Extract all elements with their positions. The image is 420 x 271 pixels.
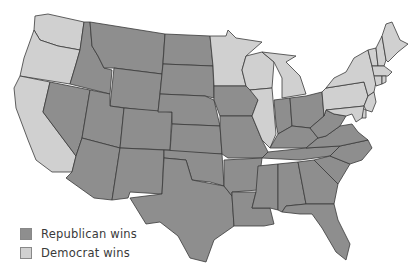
state-SD	[160, 64, 214, 98]
state-KS	[170, 124, 222, 154]
legend: Republican wins Democrat wins	[20, 224, 137, 262]
state-ND	[163, 34, 213, 66]
state-CO	[120, 108, 172, 150]
democrat-swatch	[20, 247, 32, 259]
legend-item-democrat: Democrat wins	[20, 243, 137, 262]
state-FL	[282, 204, 350, 260]
state-ME	[382, 22, 408, 62]
legend-item-republican: Republican wins	[20, 224, 137, 243]
legend-label-republican: Republican wins	[41, 227, 137, 241]
state-WY	[110, 68, 162, 112]
state-NM	[112, 148, 164, 200]
state-MA	[372, 66, 392, 76]
state-RI	[382, 76, 386, 84]
republican-swatch	[20, 228, 32, 240]
legend-label-democrat: Democrat wins	[41, 246, 130, 260]
